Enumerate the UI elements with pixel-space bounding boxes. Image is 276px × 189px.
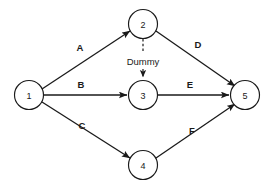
node-3[interactable]: 3: [129, 81, 158, 110]
node-4-label: 4: [140, 161, 145, 171]
node-2[interactable]: 2: [129, 10, 158, 39]
node-5-label: 5: [242, 91, 247, 101]
edge-label-b: B: [78, 79, 85, 90]
edge-label-a: A: [77, 42, 84, 53]
edge-a-line: [42, 31, 130, 89]
node-5[interactable]: 5: [231, 81, 260, 110]
node-4[interactable]: 4: [129, 151, 158, 180]
edge-label-d: D: [195, 39, 202, 50]
node-2-label: 2: [140, 20, 145, 30]
edge-label-e: E: [187, 79, 193, 90]
edge-label-c: C: [79, 120, 86, 131]
node-3-label: 3: [140, 91, 145, 101]
network-diagram-svg: 1 2 3 4 5 A B C D E F: [0, 0, 276, 189]
edge-label-dummy: Dummy: [127, 56, 160, 67]
node-1[interactable]: 1: [15, 81, 44, 110]
edge-f-line: [156, 104, 235, 158]
node-1-label: 1: [26, 91, 31, 101]
network-diagram-canvas: 1 2 3 4 5 A B C D E F: [0, 0, 276, 189]
edge-c-line: [42, 102, 130, 158]
edge-label-f: F: [189, 125, 195, 136]
